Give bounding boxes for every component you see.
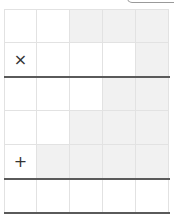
- row-divider: [4, 178, 170, 180]
- board-grid: ×+: [4, 9, 169, 213]
- board-cell[interactable]: [70, 111, 103, 145]
- row-divider: [4, 76, 170, 78]
- board-cell[interactable]: [37, 43, 70, 77]
- board-cell[interactable]: [103, 43, 136, 77]
- board-cell[interactable]: ×: [4, 43, 37, 77]
- board-cell[interactable]: [70, 77, 103, 111]
- board-cell[interactable]: [136, 43, 169, 77]
- board-cell[interactable]: [103, 145, 136, 179]
- board-cell[interactable]: [4, 179, 37, 213]
- board-cell[interactable]: [103, 77, 136, 111]
- board-cell[interactable]: +: [4, 145, 37, 179]
- board-cell[interactable]: [103, 9, 136, 43]
- board-cell[interactable]: [136, 111, 169, 145]
- board-cell[interactable]: [70, 9, 103, 43]
- game-board: ×+: [4, 9, 169, 213]
- board-cell[interactable]: [70, 145, 103, 179]
- cross-mark-icon: ×: [14, 52, 27, 68]
- board-cell[interactable]: [4, 9, 37, 43]
- board-cell[interactable]: [136, 77, 169, 111]
- board-cell[interactable]: [70, 179, 103, 213]
- board-cell[interactable]: [103, 111, 136, 145]
- board-cell[interactable]: [37, 145, 70, 179]
- board-cell[interactable]: [136, 179, 169, 213]
- board-cell[interactable]: [37, 111, 70, 145]
- board-cell[interactable]: [37, 179, 70, 213]
- plus-mark-icon: +: [14, 154, 27, 170]
- row-divider: [4, 212, 170, 214]
- board-cell[interactable]: [136, 9, 169, 43]
- board-cell[interactable]: [37, 9, 70, 43]
- board-cell[interactable]: [4, 111, 37, 145]
- board-cell[interactable]: [103, 179, 136, 213]
- board-cell[interactable]: [4, 77, 37, 111]
- board-cell[interactable]: [136, 145, 169, 179]
- board-cell[interactable]: [37, 77, 70, 111]
- board-cell[interactable]: [70, 43, 103, 77]
- top-tab-frame: [127, 0, 174, 3]
